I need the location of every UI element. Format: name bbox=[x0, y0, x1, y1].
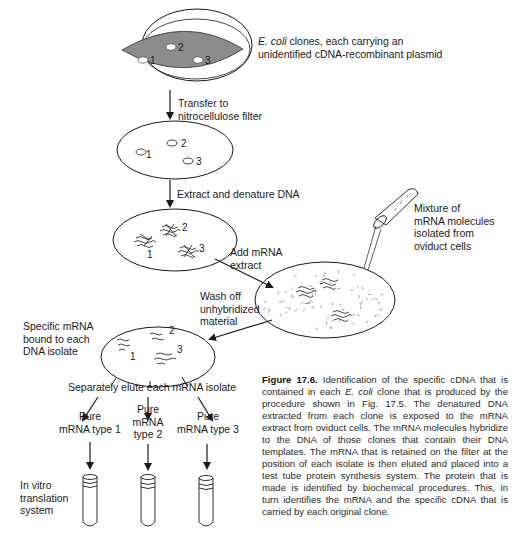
isolate-number-3: 3 bbox=[177, 344, 183, 355]
mrna-speckle bbox=[303, 309, 304, 312]
isolate-number-2: 2 bbox=[169, 325, 175, 336]
caption-italic: E. coli bbox=[345, 386, 373, 397]
wash-line1: Wash off bbox=[200, 290, 241, 302]
invitro-line2: translation bbox=[20, 492, 68, 504]
mrna-speckle bbox=[281, 301, 284, 302]
mrna-speckle bbox=[329, 327, 332, 328]
pure2-line2: mRNA bbox=[133, 416, 164, 428]
pure1-line2: mRNA type 1 bbox=[59, 423, 121, 435]
mrna-speckle bbox=[285, 311, 287, 313]
transfer-line1: Transfer to bbox=[178, 97, 228, 109]
pure1-line1: Pure bbox=[79, 410, 101, 422]
mrna-speckle bbox=[320, 281, 323, 282]
wash-line2: unhybridized bbox=[200, 303, 260, 315]
figure-caption: Figure 17.6. Identification of the speci… bbox=[262, 374, 508, 518]
dna-spot-1 bbox=[134, 234, 156, 248]
mrna-speckle bbox=[315, 275, 317, 277]
wash-label: Wash off unhybridized material bbox=[200, 290, 260, 328]
mrna-speckle bbox=[375, 298, 378, 299]
dna-number-2: 2 bbox=[182, 222, 188, 233]
mrna-speckle bbox=[268, 308, 269, 311]
hybridization-dish bbox=[255, 262, 395, 338]
mrna-speckle bbox=[339, 304, 342, 306]
pure-mrna-3-label: Pure mRNA type 3 bbox=[170, 410, 246, 435]
mrna-speckle bbox=[311, 300, 313, 302]
clones-label-rest: clones, each carrying an bbox=[287, 35, 404, 47]
mixture-line4: oviduct cells bbox=[414, 240, 471, 252]
mrna-speckle bbox=[321, 305, 322, 308]
mrna-speckle bbox=[357, 285, 359, 287]
mrna-speckle bbox=[324, 274, 325, 277]
mrna-speckle bbox=[310, 285, 313, 287]
mrna-speckle bbox=[278, 291, 279, 294]
mrna-speckle bbox=[381, 294, 384, 295]
mrna-speckle bbox=[311, 307, 314, 308]
isolate-number-1: 1 bbox=[130, 351, 136, 362]
elute-label: Separately elute each mRNA isolate bbox=[68, 381, 236, 394]
mrna-speckle bbox=[353, 274, 356, 275]
mrna-speckle bbox=[361, 301, 362, 304]
colony-number-3: 3 bbox=[205, 55, 211, 66]
colony-number-2: 2 bbox=[178, 42, 184, 53]
test-tube-2 bbox=[141, 475, 155, 527]
mrna-speckle bbox=[291, 288, 293, 290]
nitrocellulose-filter: 1 2 3 bbox=[117, 121, 233, 179]
mrna-speckle bbox=[263, 308, 266, 309]
add-mrna-line1: Add mRNA bbox=[230, 246, 283, 258]
mrna-speckle bbox=[315, 328, 318, 329]
specific-mrna-filter: 2 1 3 bbox=[101, 325, 215, 387]
add-mrna-line2: extract bbox=[230, 259, 262, 271]
specific-line3: DNA isolate bbox=[23, 345, 78, 357]
mrna-speckle bbox=[285, 292, 288, 294]
pure3-line2: mRNA type 3 bbox=[177, 423, 239, 435]
petri-dish: 1 2 3 bbox=[122, 9, 252, 81]
pure2-line1: Pure bbox=[137, 403, 159, 415]
dna-number-3: 3 bbox=[199, 243, 205, 254]
denatured-dna-filter: 1 2 3 bbox=[113, 209, 237, 271]
mrna-speckle bbox=[372, 298, 375, 300]
pipette bbox=[364, 189, 418, 270]
mrna-speckle bbox=[359, 295, 360, 298]
mrna-speckle bbox=[286, 306, 288, 308]
clones-label-line2: unidentified cDNA-recombinant plasmid bbox=[258, 48, 442, 60]
wash-line3: material bbox=[200, 315, 237, 327]
figure-label: Figure 17.6. bbox=[262, 374, 318, 385]
transfer-line2: nitrocellulose filter bbox=[178, 110, 262, 122]
mrna-speckle bbox=[291, 295, 294, 296]
specific-line1: Specific mRNA bbox=[23, 320, 94, 332]
mrna-speckle bbox=[375, 314, 376, 317]
invitro-line1: In vitro bbox=[20, 479, 52, 491]
colony-number-1: 1 bbox=[150, 55, 156, 66]
colony-3 bbox=[193, 57, 203, 63]
mrna-speckle bbox=[279, 301, 282, 302]
pure2-line3: type 2 bbox=[134, 428, 163, 440]
add-mrna-label: Add mRNA extract bbox=[230, 246, 283, 271]
filter-number-1: 1 bbox=[146, 149, 152, 160]
mrna-speckle bbox=[332, 320, 334, 323]
invitro-line3: system bbox=[20, 504, 53, 516]
mrna-speckle bbox=[353, 322, 355, 324]
colony-2 bbox=[166, 44, 176, 50]
dna-spot-2 bbox=[160, 224, 180, 237]
dna-number-1: 1 bbox=[147, 249, 153, 260]
pure-mrna-1-label: Pure mRNA type 1 bbox=[52, 410, 128, 435]
mrna-speckle bbox=[330, 326, 333, 327]
transfer-label: Transfer to nitrocellulose filter bbox=[178, 97, 262, 122]
mrna-speckle bbox=[366, 298, 368, 300]
clones-label: E. coli clones, each carrying an unident… bbox=[258, 35, 442, 60]
mrna-speckle bbox=[358, 314, 359, 317]
mrna-speckle bbox=[362, 287, 363, 290]
pure-mrna-2-label: Pure mRNA type 2 bbox=[128, 403, 168, 441]
colony-1 bbox=[138, 57, 148, 63]
mrna-speckle bbox=[264, 300, 266, 303]
mixture-line2: mRNA molecules bbox=[414, 215, 495, 227]
test-tube-1 bbox=[83, 475, 97, 527]
mrna-speckle bbox=[295, 309, 297, 311]
mrna-speckle bbox=[360, 303, 361, 306]
filter-number-2: 2 bbox=[181, 138, 187, 149]
test-tube-3 bbox=[199, 476, 213, 527]
in-vitro-label: In vitro translation system bbox=[20, 479, 68, 517]
filter-number-3: 3 bbox=[196, 156, 202, 167]
mrna-speckle bbox=[280, 314, 281, 317]
mixture-label: Mixture of mRNA molecules isolated from … bbox=[414, 202, 495, 252]
